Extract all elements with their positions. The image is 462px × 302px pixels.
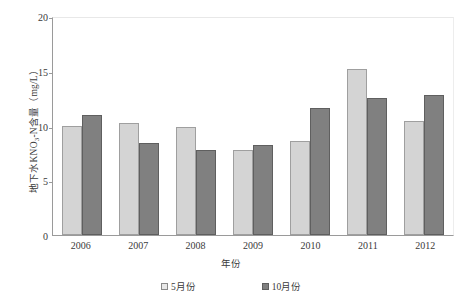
x-tick-label: 2007 (109, 240, 166, 251)
y-tick-mark (49, 18, 53, 19)
bar-2010-may[interactable] (290, 141, 310, 235)
bar-group (224, 18, 281, 235)
y-tick-label: 5 (22, 176, 48, 187)
x-tick-label: 2011 (339, 240, 396, 251)
bar-2007-october[interactable] (139, 143, 159, 235)
plot-area (52, 17, 454, 236)
x-tick-label: 2009 (224, 240, 281, 251)
bar-2010-october[interactable] (310, 108, 330, 235)
legend-swatch-october-icon (262, 283, 269, 290)
x-tick-label: 2008 (167, 240, 224, 251)
x-tick-label: 2012 (397, 240, 454, 251)
legend-swatch-may-icon (161, 283, 168, 290)
bar-2006-may[interactable] (62, 126, 82, 236)
bar-2012-october[interactable] (424, 95, 444, 235)
bar-groups (53, 18, 453, 235)
bar-group (110, 18, 167, 235)
x-axis-tick-labels: 2006200720082009201020112012 (52, 240, 454, 251)
bar-2011-may[interactable] (347, 69, 367, 235)
legend-item-may[interactable]: 5月份 (161, 279, 196, 293)
y-tick-label: 15 (22, 66, 48, 77)
bar-chart: 地下水KNO3-N含量（mg/L） 05101520 2006200720082… (0, 0, 462, 302)
y-tick-label: 20 (22, 12, 48, 23)
bar-2007-may[interactable] (119, 123, 139, 235)
bar-group (282, 18, 339, 235)
y-tick-mark (49, 128, 53, 129)
y-tick-mark (49, 182, 53, 183)
bar-2009-october[interactable] (253, 145, 273, 235)
bar-2008-may[interactable] (176, 127, 196, 235)
bar-group (53, 18, 110, 235)
x-tick-label: 2006 (52, 240, 109, 251)
chart-legend: 5月份 10月份 (0, 279, 462, 293)
bar-2006-october[interactable] (82, 115, 102, 235)
bar-2011-october[interactable] (367, 98, 387, 235)
x-axis-title: 年份 (0, 256, 462, 270)
legend-item-october[interactable]: 10月份 (262, 279, 302, 293)
y-tick-label: 0 (22, 231, 48, 242)
bar-2012-may[interactable] (404, 121, 424, 235)
legend-label-may: 5月份 (171, 279, 196, 293)
bar-group (167, 18, 224, 235)
bar-2009-may[interactable] (233, 150, 253, 235)
y-tick-mark (49, 73, 53, 74)
y-tick-label: 10 (22, 121, 48, 132)
legend-label-october: 10月份 (272, 279, 302, 293)
bar-group (396, 18, 453, 235)
x-tick-label: 2010 (282, 240, 339, 251)
bar-group (339, 18, 396, 235)
bar-2008-october[interactable] (196, 150, 216, 235)
